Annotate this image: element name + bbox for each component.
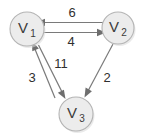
graph-canvas: V 1 V 2 V 3 6 4 11 3 2: [0, 0, 144, 134]
node-v1-label: V: [18, 19, 28, 36]
node-v2-subscript: 2: [121, 27, 127, 38]
edge-weight-v1-v2: 4: [67, 34, 74, 49]
node-v3-label: V: [67, 104, 77, 121]
edge-weight-v1-v3: 11: [54, 56, 68, 71]
node-v3[interactable]: V 3: [59, 97, 95, 133]
graph-diagram: V 1 V 2 V 3 6 4 11 3 2: [0, 0, 144, 134]
edge-v1-to-v3-arrowhead: [58, 90, 66, 99]
edge-weight-v3-v1: 3: [28, 70, 35, 85]
node-v1[interactable]: V 1: [10, 12, 46, 48]
edge-v2-to-v3-arrowhead: [85, 88, 92, 98]
node-v2[interactable]: V 2: [102, 12, 136, 46]
node-v1-subscript: 1: [30, 28, 36, 39]
edge-weight-v2-v1: 6: [68, 5, 75, 20]
edge-weight-v2-v3: 2: [103, 70, 110, 85]
node-v2-label: V: [109, 18, 119, 35]
node-v3-subscript: 3: [79, 113, 85, 124]
